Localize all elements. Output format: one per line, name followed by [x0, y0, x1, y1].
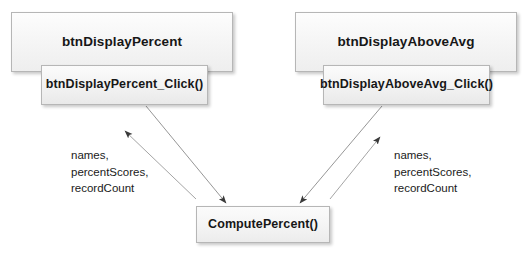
edge-label-right-line-2: percentScores,	[394, 164, 471, 181]
node-btn-display-above-avg-click[interactable]: btnDisplayAboveAvg_Click()	[323, 65, 490, 105]
edge-label-right-line-3: recordCount	[394, 180, 471, 197]
edge-label-right: names, percentScores, recordCount	[394, 147, 471, 197]
edge-label-left-line-2: percentScores,	[71, 164, 148, 181]
diagram-canvas: btnDisplayPercent btnDisplayPercent_Clic…	[0, 0, 528, 257]
node-compute-percent[interactable]: ComputePercent()	[196, 206, 330, 243]
edge-right-return	[330, 137, 380, 199]
node-label: btnDisplayAboveAvg_Click()	[320, 78, 493, 92]
node-label: btnDisplayAboveAvg	[337, 35, 474, 50]
edge-right-call	[300, 106, 382, 203]
node-btn-display-percent-click[interactable]: btnDisplayPercent_Click()	[41, 65, 208, 105]
node-label: btnDisplayPercent	[62, 35, 182, 50]
node-btn-display-above-avg[interactable]: btnDisplayAboveAvg	[295, 12, 517, 72]
edge-label-right-line-1: names,	[394, 147, 471, 164]
edge-label-left-line-3: recordCount	[71, 180, 148, 197]
edge-label-left-line-1: names,	[71, 147, 148, 164]
edge-label-left: names, percentScores, recordCount	[71, 147, 148, 197]
node-label: ComputePercent()	[208, 218, 318, 232]
node-btn-display-percent[interactable]: btnDisplayPercent	[11, 12, 233, 72]
edge-left-call	[146, 106, 226, 203]
node-label: btnDisplayPercent_Click()	[46, 78, 203, 92]
